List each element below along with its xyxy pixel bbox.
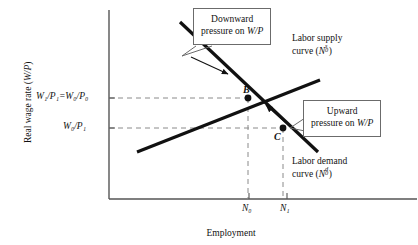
supply-label-line1: Labor supply <box>292 33 342 43</box>
demand-label-subscript: 0 <box>325 169 328 176</box>
downward-callout-line2-pre: pressure on <box>201 26 247 36</box>
supply-label-subscript: 0 <box>325 46 328 53</box>
point-c-label: C <box>274 131 281 142</box>
demand-label-line1: Labor demand <box>292 156 347 166</box>
upward-callout-line2-pre: pressure on <box>311 118 357 128</box>
point-b-label: B <box>243 84 250 95</box>
x-axis-title: Employment <box>176 228 286 239</box>
upward-callout-line1: Upward <box>327 106 358 116</box>
x-tick-label-n0: N₀ <box>242 203 252 214</box>
supply-label-line2-pre: curve ( <box>292 45 319 55</box>
demand-label-line2-post: ) <box>329 168 332 178</box>
economics-figure: Real wage rate (W/P) Employment W₁/P₁=W₀… <box>0 0 418 245</box>
supply-label-line2-post: ) <box>329 45 332 55</box>
upward-callout-line2-em: W/P <box>357 118 373 128</box>
upward-pressure-callout: Upward pressure on W/P <box>303 100 381 137</box>
x-tick-label-n1: N₁ <box>280 203 290 214</box>
point-b-marker <box>245 95 252 102</box>
y-axis-title-em: W/P <box>23 65 33 81</box>
downward-pressure-arrow <box>191 57 228 74</box>
demand-label-indices: d0 <box>325 167 329 177</box>
upward-pressure-arrow <box>266 105 293 129</box>
y-axis-title: Real wage rate (W/P) <box>23 27 34 177</box>
labor-demand-curve-label: Labor demand curve (Nd0) <box>292 156 347 179</box>
supply-label-indices: s0 <box>325 44 329 54</box>
y-tick-label-low: W₀/P₁ <box>63 121 86 132</box>
demand-label-line2-pre: curve ( <box>292 168 319 178</box>
y-axis-title-pre: Real wage rate ( <box>23 81 33 143</box>
downward-callout-tail <box>182 46 212 56</box>
labor-supply-curve-label: Labor supply curve (Ns0) <box>292 33 342 56</box>
y-tick-label-high: W₁/P₁=W₀/P₀ <box>36 91 88 102</box>
labor-supply-curve <box>137 80 320 152</box>
downward-callout-line2-em: W/P <box>247 26 263 36</box>
y-axis-title-post: ) <box>23 62 33 65</box>
downward-pressure-callout: Downward pressure on W/P <box>193 8 271 45</box>
downward-callout-line1: Downward <box>211 14 253 24</box>
